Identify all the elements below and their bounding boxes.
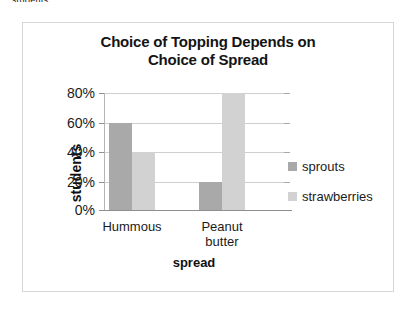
legend-label-strawberries: strawberries (302, 189, 373, 204)
legend-item-sprouts: sprouts (288, 151, 394, 181)
page-text-fragment: students. (12, 0, 51, 2)
ytick-label-0: 0% (75, 202, 95, 218)
ytick-right-60 (284, 123, 290, 124)
legend-swatch-icon-strawberries (288, 192, 297, 201)
bar-hummous-sprouts (109, 123, 132, 212)
bar-peanut-butter-sprouts (199, 182, 222, 212)
legend-label-sprouts: sprouts (302, 159, 345, 174)
plot-grid: 80% 60% 40% 20% 0% Hummous Peanut butter (104, 93, 284, 211)
y-axis-line (104, 93, 105, 211)
chart-container: Choice of Topping Depends on Choice of S… (22, 22, 394, 292)
ytick-label-20: 20% (67, 174, 95, 190)
legend-item-strawberries: strawberries (288, 181, 394, 211)
bar-peanut-butter-strawberries (222, 93, 245, 211)
bar-hummous-strawberries (132, 152, 155, 211)
ytick-label-80: 80% (67, 85, 95, 101)
chart-title-line-1: Choice of Topping Depends on (23, 33, 393, 51)
x-axis-line (104, 210, 292, 211)
ytick-label-60: 60% (67, 115, 95, 131)
plot-area: 80% 60% 40% 20% 0% Hummous Peanut butter (104, 93, 284, 211)
xtick-label-hummous: Hummous (102, 219, 161, 234)
chart-legend: sprouts strawberries (288, 151, 394, 211)
chart-title-line-2: Choice of Spread (23, 51, 393, 69)
ytick-right-80 (284, 93, 290, 94)
gridline-80 (104, 93, 284, 94)
ytick-label-40: 40% (67, 144, 95, 160)
x-axis-title: spread (104, 255, 284, 270)
legend-swatch-icon-sprouts (288, 162, 297, 171)
chart-title: Choice of Topping Depends on Choice of S… (23, 33, 393, 69)
xtick-label-peanut-butter: Peanut butter (201, 219, 242, 249)
